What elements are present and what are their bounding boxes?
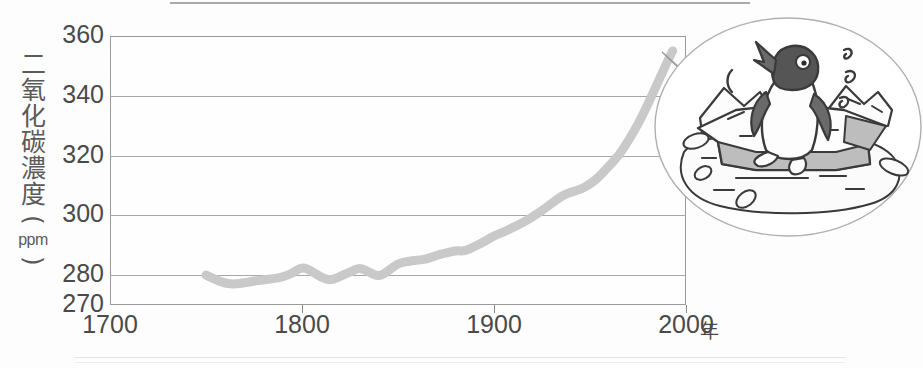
y-tick-label-340: 340: [44, 80, 104, 109]
callout-bubble: [640, 0, 923, 250]
x-tick-mark-1800: [302, 305, 303, 313]
x-tick-label-1900: 1900: [449, 310, 539, 339]
y-axis-unit-paren-open: (: [23, 215, 43, 225]
x-tick-label-1700: 1700: [65, 310, 155, 339]
y-axis-unit-paren-close: ): [23, 256, 43, 266]
scan-artifact-bottom-2: [75, 362, 845, 363]
co2-curve-path: [206, 51, 673, 284]
co2-concentration-chart-figure: 二 氧 化 碳 濃 度 ( ppm ) 270280300320340360 1…: [0, 0, 923, 368]
y-tick-label-360: 360: [44, 20, 104, 49]
y-axis-title-char: 二: [21, 52, 46, 78]
x-axis-unit-label: 年: [700, 316, 719, 343]
y-tick-label-300: 300: [44, 199, 104, 228]
y-axis-title-char: 化: [21, 104, 46, 130]
co2-curve: [110, 36, 686, 305]
y-tick-label-280: 280: [44, 259, 104, 288]
x-tick-mark-1900: [494, 305, 495, 313]
y-axis-title-char: 度: [21, 182, 46, 208]
plot-area: [110, 36, 686, 305]
y-tick-label-320: 320: [44, 140, 104, 169]
scan-artifact-bottom-1: [75, 357, 845, 358]
x-tick-mark-2000: [686, 305, 687, 313]
y-axis-title-char: 濃: [21, 156, 46, 182]
x-tick-label-1800: 1800: [257, 310, 347, 339]
y-axis-title-char: 氧: [21, 78, 46, 104]
y-axis-title-char: 碳: [21, 130, 46, 156]
